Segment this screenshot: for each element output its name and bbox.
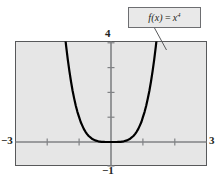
function-callout-box: f(x)=x4 bbox=[128, 7, 201, 28]
x-axis-max-label: 3 bbox=[209, 135, 215, 146]
y-axis-max-label: 4 bbox=[105, 28, 111, 39]
x-axis-min-label: −3 bbox=[1, 135, 13, 146]
y-axis-min-label: −1 bbox=[102, 165, 114, 176]
function-exponent: 4 bbox=[177, 11, 180, 18]
equals-operator: = bbox=[165, 12, 171, 23]
function-argument: (x) bbox=[151, 12, 163, 23]
figure-quartic-graph: −3 3 4 −1 f(x)=x4 bbox=[0, 0, 223, 179]
function-equation-text: f(x)=x4 bbox=[148, 12, 181, 23]
